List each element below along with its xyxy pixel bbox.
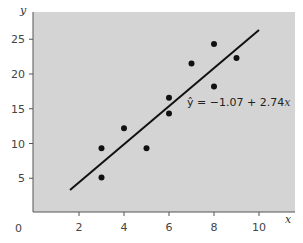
- data-point: [234, 55, 240, 61]
- data-point: [121, 125, 127, 131]
- y-axis-ticks: 510152025: [11, 33, 33, 185]
- plot-area: [33, 12, 295, 212]
- x-tick-label: 10: [252, 221, 266, 234]
- equation-variable: x: [284, 96, 291, 109]
- data-point: [166, 95, 172, 101]
- y-tick-label: 20: [11, 68, 25, 81]
- y-tick-label: 10: [11, 138, 25, 151]
- x-tick-label: 8: [211, 221, 218, 234]
- x-tick-label: 4: [121, 221, 128, 234]
- y-tick-label: 15: [11, 103, 25, 116]
- regression-equation: ŷ = −1.07 + 2.74x: [187, 96, 291, 109]
- y-tick-label: 5: [18, 172, 25, 185]
- data-point: [211, 41, 217, 47]
- y-tick-label: 25: [11, 33, 25, 46]
- data-point: [99, 175, 105, 181]
- scatter-chart: 510152025 246810 y x 0 ŷ = −1.07 + 2.74x: [0, 0, 303, 243]
- origin-label: 0: [15, 222, 22, 235]
- data-point: [144, 145, 150, 151]
- x-axis-label: x: [285, 213, 292, 226]
- x-axis-ticks: 246810: [76, 212, 267, 234]
- data-point: [99, 145, 105, 151]
- equation-text: ŷ = −1.07 + 2.74: [187, 96, 284, 109]
- data-point: [211, 84, 217, 90]
- data-point: [189, 61, 195, 67]
- y-axis-label: y: [19, 4, 27, 17]
- x-tick-label: 2: [76, 221, 83, 234]
- data-point: [166, 111, 172, 117]
- x-tick-label: 6: [166, 221, 173, 234]
